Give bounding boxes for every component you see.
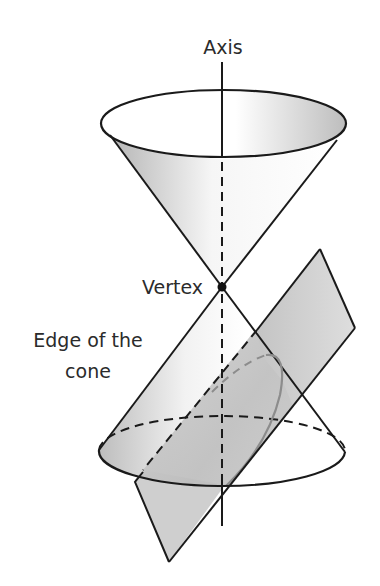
edge-of-cone-label-line2: cone xyxy=(65,360,111,382)
axis-label: Axis xyxy=(203,36,242,58)
vertex-point xyxy=(218,283,227,292)
upper-cone-opening xyxy=(101,90,346,157)
conic-section-diagram: Axis Vertex Edge of the cone xyxy=(0,0,380,586)
upper-nappe xyxy=(101,90,346,287)
vertex-label: Vertex xyxy=(142,276,203,298)
edge-of-cone-label-line1: Edge of the xyxy=(33,329,142,351)
